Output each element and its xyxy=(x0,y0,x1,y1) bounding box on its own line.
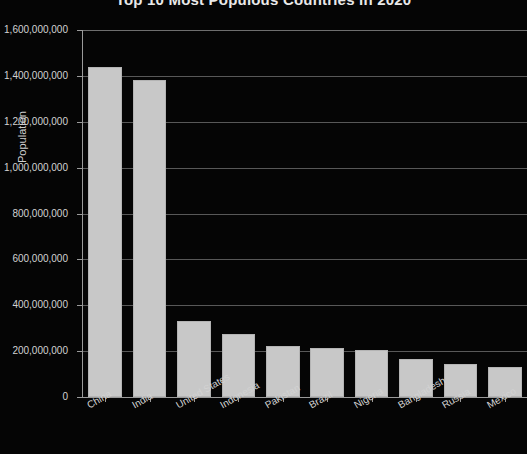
y-tick-label: 1,200,000,000 xyxy=(0,116,68,127)
page-title: Top 10 Most Populous Countries in 2020 xyxy=(0,0,527,8)
bar[interactable] xyxy=(88,67,122,397)
bar[interactable] xyxy=(133,80,167,397)
y-tick-label: 400,000,000 xyxy=(0,299,68,310)
y-tick-label: 0 xyxy=(0,391,68,402)
y-tick-mark xyxy=(77,397,83,398)
y-tick-label: 800,000,000 xyxy=(0,208,68,219)
chart-container: Top 10 Most Populous Countries in 2020 P… xyxy=(0,0,527,454)
y-tick-label: 1,000,000,000 xyxy=(0,162,68,173)
y-tick-label: 1,400,000,000 xyxy=(0,70,68,81)
gridline xyxy=(83,30,527,31)
y-tick-label: 1,600,000,000 xyxy=(0,24,68,35)
y-tick-label: 600,000,000 xyxy=(0,253,68,264)
plot-area xyxy=(83,30,527,397)
y-tick-label: 200,000,000 xyxy=(0,345,68,356)
gridline xyxy=(83,76,527,77)
